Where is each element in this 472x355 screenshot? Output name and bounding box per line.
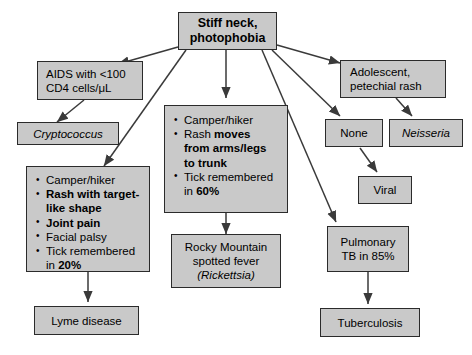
list-item: Joint pain	[35, 216, 144, 230]
aids-line-1: AIDS with <100	[46, 67, 142, 81]
flowchart-canvas: Stiff neck, photophobia AIDS with <100 C…	[0, 0, 472, 355]
list-item: Rash moves from arms/legs to trunk	[173, 127, 281, 170]
edge-adolescent-to-neisseria	[396, 98, 412, 116]
pulmonary-tb-line-1: Pulmonary	[341, 235, 396, 249]
none-label: None	[340, 126, 368, 140]
node-aids[interactable]: AIDS with <100 CD4 cells/μL	[37, 61, 143, 100]
bullet-text: Joint pain	[46, 217, 100, 229]
node-rocky-mountain-spotted-fever[interactable]: Rocky Mountain spotted fever (Rickettsia…	[171, 234, 281, 288]
center-findings-list: Camper/hiker Rash moves from arms/legs t…	[173, 113, 281, 198]
list-item: Tick remembered in 60%	[173, 170, 281, 198]
rmsf-line-1: Rocky Mountain	[185, 240, 267, 254]
bullet-text: Camper/hiker	[184, 114, 253, 126]
aids-line-2: CD4 cells/μL	[46, 81, 142, 95]
lyme-findings-list: Camper/hiker Rash with target- like shap…	[35, 173, 144, 272]
lyme-disease-label: Lyme disease	[51, 314, 122, 328]
adolescent-line-1: Adolescent,	[350, 65, 445, 79]
node-pulmonary-tb[interactable]: Pulmonary TB in 85%	[327, 226, 409, 272]
node-stiff-neck-photophobia[interactable]: Stiff neck, photophobia	[178, 12, 277, 50]
list-item: Tick remembered in 20%	[35, 244, 144, 272]
adolescent-line-2: petechial rash	[350, 79, 445, 93]
list-item: Camper/hiker	[35, 173, 144, 187]
bullet-text: Facial palsy	[46, 231, 107, 243]
node-tuberculosis[interactable]: Tuberculosis	[320, 308, 420, 337]
bullet-text: Tick remembered	[184, 171, 273, 183]
pulmonary-tb-line-2: TB in 85%	[341, 249, 394, 263]
node-viral[interactable]: Viral	[358, 176, 412, 204]
edge-aids-to-cryptococcus	[57, 100, 84, 122]
node-lyme-findings[interactable]: Camper/hiker Rash with target- like shap…	[26, 166, 150, 272]
viral-label: Viral	[374, 183, 397, 197]
bullet-text-cont: in 20%	[46, 258, 144, 272]
bullet-text-cont: from arms/legs	[184, 141, 281, 155]
node-none[interactable]: None	[325, 119, 383, 147]
node-center-findings[interactable]: Camper/hiker Rash moves from arms/legs t…	[164, 105, 288, 213]
cryptococcus-label: Cryptococcus	[33, 127, 103, 141]
root-line-2: photophobia	[190, 31, 266, 47]
node-neisseria[interactable]: Neisseria	[389, 119, 463, 147]
bullet-text: Camper/hiker	[46, 174, 115, 186]
bullet-text: Rash with target-	[46, 188, 139, 200]
node-adolescent[interactable]: Adolescent, petechial rash	[340, 60, 446, 98]
tuberculosis-label: Tuberculosis	[338, 316, 403, 330]
bullet-text: Rash moves	[184, 128, 250, 140]
neisseria-label: Neisseria	[402, 126, 450, 140]
list-item: Camper/hiker	[173, 113, 281, 127]
node-lyme-disease[interactable]: Lyme disease	[34, 306, 139, 335]
bullet-text-cont: in 60%	[184, 184, 281, 198]
bullet-text-cont: like shape	[46, 201, 144, 215]
list-item: Rash with target- like shape	[35, 187, 144, 215]
edge-root-to-adolescent	[277, 45, 340, 63]
list-item: Facial palsy	[35, 230, 144, 244]
node-cryptococcus[interactable]: Cryptococcus	[17, 122, 119, 145]
rmsf-line-2: spotted fever	[193, 254, 259, 268]
rmsf-organism: (Rickettsia)	[197, 268, 255, 282]
bullet-text: Tick remembered	[46, 245, 135, 257]
edge-none-to-viral	[360, 148, 377, 172]
bullet-text-cont: to trunk	[184, 156, 281, 170]
root-line-1: Stiff neck,	[198, 16, 258, 32]
